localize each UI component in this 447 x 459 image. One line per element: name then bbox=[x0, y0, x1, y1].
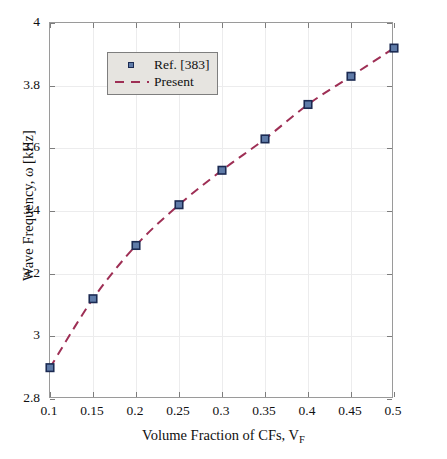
x-tick-label: 0.15 bbox=[80, 404, 104, 418]
x-tick-label: 0.5 bbox=[385, 404, 402, 418]
plot-area: Ref. [383] Present bbox=[49, 22, 393, 398]
x-tick-label: 0.25 bbox=[166, 404, 190, 418]
y-tick-label: 4 bbox=[0, 15, 40, 29]
square-marker-icon bbox=[113, 58, 151, 72]
y-tick-mark bbox=[387, 399, 392, 400]
x-axis-title: Volume Fraction of CFs, VF bbox=[0, 427, 447, 445]
x-tick-label: 0.4 bbox=[299, 404, 316, 418]
data-point-marker bbox=[347, 73, 355, 81]
data-point-marker bbox=[89, 295, 97, 303]
data-point-marker bbox=[175, 201, 183, 209]
legend-label-present: Present bbox=[151, 75, 194, 89]
x-axis-title-main: Volume Fraction of CFs, V bbox=[142, 427, 299, 443]
y-tick-label: 3.8 bbox=[0, 78, 40, 92]
data-point-marker bbox=[46, 364, 54, 372]
data-point-marker bbox=[304, 101, 312, 109]
ref-383-marker-group bbox=[46, 44, 398, 371]
x-tick-label: 0.45 bbox=[338, 404, 362, 418]
present-dashed-line bbox=[50, 48, 394, 368]
x-tick-mark bbox=[394, 392, 395, 397]
legend-label-ref: Ref. [383] bbox=[151, 58, 209, 72]
y-axis-title: Wave Frequency, ω [kHz] bbox=[20, 96, 37, 316]
x-tick-mark bbox=[394, 23, 395, 28]
x-axis-title-subscript: F bbox=[299, 434, 305, 445]
legend: Ref. [383] Present bbox=[107, 52, 218, 95]
x-tick-label: 0.1 bbox=[41, 404, 58, 418]
data-point-marker bbox=[261, 135, 269, 143]
data-series-layer bbox=[50, 23, 394, 399]
legend-item-ref[interactable]: Ref. [383] bbox=[113, 56, 209, 73]
y-tick-label: 2.8 bbox=[0, 391, 40, 405]
x-tick-label: 0.35 bbox=[252, 404, 276, 418]
legend-item-present[interactable]: Present bbox=[113, 73, 209, 90]
data-point-marker bbox=[132, 242, 140, 250]
y-tick-mark bbox=[50, 399, 55, 400]
chart-figure: Ref. [383] Present 0.10.150.20.250.30.35… bbox=[0, 0, 447, 459]
dashed-line-icon bbox=[113, 75, 151, 89]
x-tick-label: 0.2 bbox=[127, 404, 144, 418]
y-tick-label: 3 bbox=[0, 328, 40, 342]
data-point-marker bbox=[218, 167, 226, 175]
data-point-marker bbox=[390, 44, 398, 52]
x-tick-label: 0.3 bbox=[213, 404, 230, 418]
